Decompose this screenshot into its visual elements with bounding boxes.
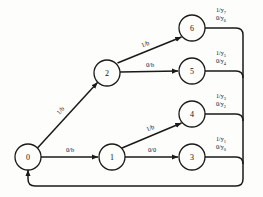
state-diagram-svg: 0 1 2 3 4 5 6 [0,0,263,197]
transition-label-1-to-3: 0/0 [148,146,156,153]
return-path-from-5 [205,71,243,78]
state-node-1-label: 1 [110,153,114,162]
output-3-line1-sub: 1 [224,139,226,144]
output-3-line2-sub: 0 [224,147,227,152]
state-node-1[interactable]: 1 [99,144,125,170]
state-diagram-canvas: 0 1 2 3 4 5 6 [0,0,263,197]
state-node-4-label: 4 [190,110,194,119]
svg-text:0/y2: 0/y2 [216,100,226,109]
state-node-4[interactable]: 4 [179,101,205,127]
state-node-2-label: 2 [105,69,109,78]
transition-label-0-to-1: 0/b [66,146,74,153]
return-path-from-4 [205,114,243,121]
transition-edges [38,37,182,157]
output-4-line2-sub: 2 [224,104,226,109]
svg-text:0/y4: 0/y4 [216,57,227,66]
transition-label-1-to-4: 1/b [145,123,155,133]
state-node-5[interactable]: 5 [179,58,205,84]
output-6-line2-sub: 6 [224,18,227,23]
output-label-6: 1/y7 0/y6 [216,6,227,23]
output-6-line1-sub: 7 [224,10,227,15]
return-path-from-3 [205,157,243,164]
output-4-line1-sub: 3 [224,96,227,101]
state-node-0-label: 0 [26,153,30,162]
svg-text:0/y0: 0/y0 [216,143,227,152]
state-node-2[interactable]: 2 [94,60,120,86]
output-5-line1-sub: 5 [224,53,227,58]
output-label-5: 1/y5 0/y4 [216,49,227,66]
state-node-5-label: 5 [190,67,194,76]
state-node-6[interactable]: 6 [179,15,205,41]
output-label-3: 1/y1 0/y0 [216,135,227,152]
output-5-line2-sub: 4 [224,61,227,66]
output-label-4: 1/y3 0/y2 [216,92,227,109]
edge-2-to-6 [118,37,182,63]
transition-label-2-to-6: 1/b [140,39,150,49]
transition-label-0-to-2: 1/b [55,105,66,116]
state-node-0[interactable]: 0 [15,144,41,170]
svg-text:0/y6: 0/y6 [216,14,227,23]
edge-0-to-2 [38,83,98,149]
edge-2-to-5 [120,71,178,72]
state-node-3-label: 3 [190,153,194,162]
state-node-6-label: 6 [190,24,194,33]
state-node-3[interactable]: 3 [179,144,205,170]
transition-label-2-to-5: 0/b [146,61,154,68]
transition-labels: 1/b 0/b 1/b 0/b 1/b 0/0 [55,39,156,153]
